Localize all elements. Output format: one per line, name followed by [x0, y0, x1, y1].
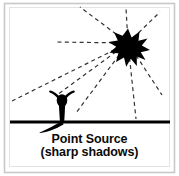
point-source-diagram-panel: Point Source (sharp shadows) [0, 0, 179, 176]
caption: Point Source (sharp shadows) [0, 133, 179, 159]
caption-line-secondary: (sharp shadows) [0, 146, 179, 159]
